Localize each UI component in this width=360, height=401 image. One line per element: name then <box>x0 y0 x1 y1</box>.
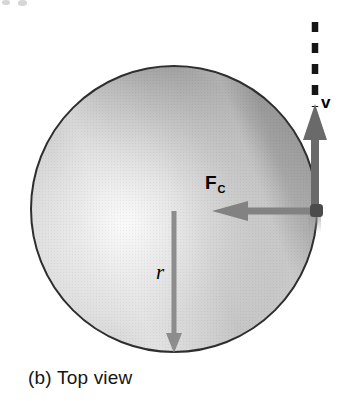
radius-label: r <box>156 260 164 285</box>
force-symbol: F <box>205 172 217 193</box>
velocity-arrow <box>303 104 327 212</box>
physics-figure-top-view: v FC r (b) Top view <box>0 0 360 401</box>
contact-point-dot <box>310 204 323 217</box>
figure-caption: (b) Top view <box>28 367 132 389</box>
centripetal-force-arrow <box>212 201 320 221</box>
radius-arrow <box>166 211 182 353</box>
velocity-label: v <box>321 93 330 113</box>
force-subscript: C <box>218 183 226 195</box>
vector-overlay <box>0 0 360 401</box>
centripetal-force-label: FC <box>205 172 225 194</box>
